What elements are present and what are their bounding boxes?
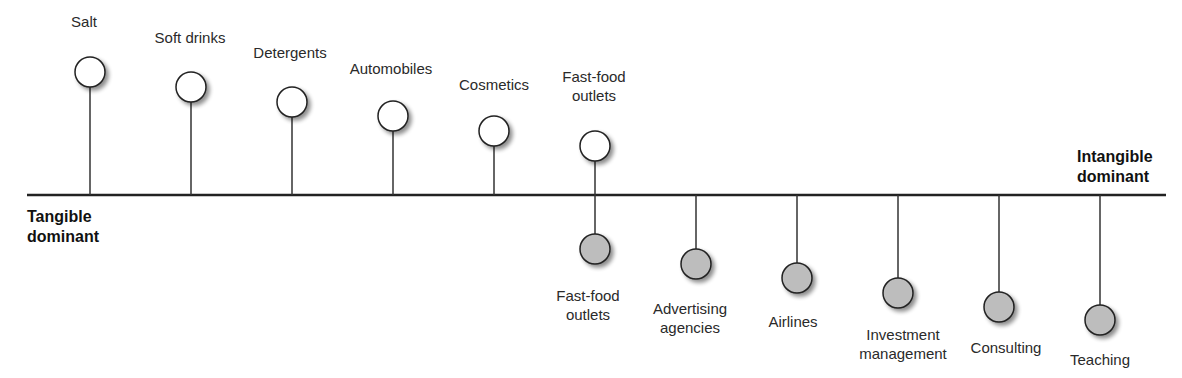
tangible-marker (580, 131, 610, 161)
intangible-marker (580, 234, 610, 264)
intangible-marker (782, 263, 812, 293)
intangible-dominant-label: Intangible dominant (1077, 147, 1153, 187)
tangible-marker (176, 72, 206, 102)
tangible-marker (479, 116, 509, 146)
label-investment: Investment management (848, 325, 958, 363)
label-cosmetics: Cosmetics (459, 75, 529, 94)
label-advertising: Advertising agencies (640, 299, 740, 337)
label-consulting: Consulting (971, 338, 1042, 357)
intangible-marker (883, 278, 913, 308)
label-automobiles: Automobiles (350, 59, 433, 78)
label-soft-drinks: Soft drinks (155, 28, 226, 47)
tangible-marker (277, 87, 307, 117)
intangible-marker (984, 292, 1014, 322)
label-fast-food-top: Fast-food outlets (554, 67, 634, 105)
label-detergents: Detergents (253, 43, 326, 62)
label-fast-food-bottom: Fast-food outlets (548, 286, 628, 324)
tangible-marker (75, 57, 105, 87)
intangible-marker (1085, 305, 1115, 335)
tangible-marker (378, 101, 408, 131)
label-salt: Salt (71, 12, 97, 31)
label-airlines: Airlines (768, 312, 817, 331)
tangible-dominant-label: Tangible dominant (27, 207, 99, 247)
intangible-marker (681, 249, 711, 279)
label-teaching: Teaching (1070, 350, 1130, 369)
